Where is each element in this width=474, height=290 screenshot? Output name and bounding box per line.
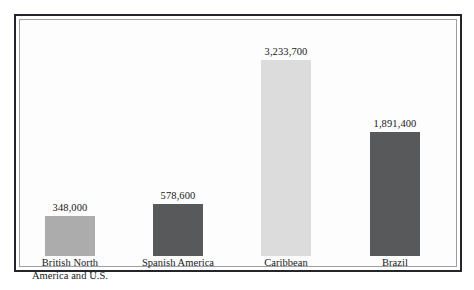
bar-rect[interactable] <box>45 216 95 256</box>
bar-rect[interactable] <box>370 132 420 256</box>
bar-category-label: Brazil <box>341 257 449 270</box>
plot-area: 348,000 British North America and U.S. 5… <box>16 16 464 274</box>
bar-group: 1,891,400 Brazil <box>341 16 449 256</box>
bar-value-label: 348,000 <box>53 201 88 214</box>
bar-column: 3,233,700 <box>232 16 340 256</box>
bar-category-label-line: Spanish America <box>124 257 232 270</box>
bar-group: 348,000 British North America and U.S. <box>16 16 124 256</box>
bar-category-label-line: Brazil <box>341 257 449 270</box>
bar-category-label-line: British North <box>16 257 124 270</box>
bar-category-label-line: Caribbean <box>232 257 340 270</box>
chart-frame: 348,000 British North America and U.S. 5… <box>14 14 462 272</box>
bar-category-label: Caribbean <box>232 257 340 270</box>
bar-group: 3,233,700 Caribbean <box>232 16 340 256</box>
bar-column: 348,000 <box>16 16 124 256</box>
bar-rect[interactable] <box>261 60 311 256</box>
bar-column: 1,891,400 <box>341 16 449 256</box>
bar-group: 578,600 Spanish America <box>124 16 232 256</box>
bar-chart-figure: 348,000 British North America and U.S. 5… <box>0 0 474 290</box>
bar-column: 578,600 <box>124 16 232 256</box>
bar-value-label: 578,600 <box>161 189 196 202</box>
bar-category-label: British North America and U.S. <box>16 257 124 282</box>
bar-value-label: 1,891,400 <box>374 117 417 130</box>
bar-value-label: 3,233,700 <box>265 45 308 58</box>
bar-category-label: Spanish America <box>124 257 232 270</box>
bar-rect[interactable] <box>153 204 203 256</box>
bar-category-label-line: America and U.S. <box>16 270 124 283</box>
